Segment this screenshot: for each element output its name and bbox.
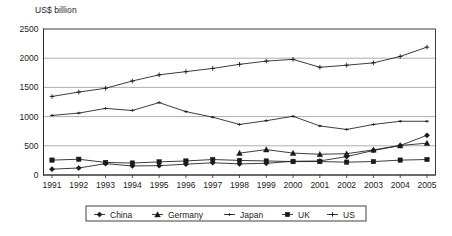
- legend-label: Japan: [240, 210, 263, 220]
- x-axis-tick-label: 1993: [96, 180, 115, 190]
- y-axis-tick-label: 2000: [20, 53, 39, 63]
- y-axis-tick-label: 500: [24, 141, 38, 151]
- line-chart: US$ billion 05001000150020002500 1991199…: [0, 0, 452, 236]
- x-axis-tick-label: 1996: [176, 180, 195, 190]
- legend-marker-icon: [97, 212, 102, 217]
- y-axis-tick-label: 1500: [20, 82, 39, 92]
- series-germany: [237, 140, 430, 156]
- y-axis-tick-label: 1000: [20, 112, 39, 122]
- legend-item-germany[interactable]: Germany: [152, 210, 204, 220]
- legend-item-us[interactable]: US: [327, 210, 355, 220]
- data-point-marker: [130, 161, 134, 165]
- legend-label: China: [110, 210, 132, 220]
- legend-label: Germany: [168, 210, 204, 220]
- data-point-marker: [318, 159, 322, 163]
- x-axis-tick-label: 2004: [391, 180, 410, 190]
- y-axis-ticks: 05001000150020002500: [20, 24, 39, 180]
- data-point-marker: [237, 158, 241, 162]
- data-point-marker: [49, 167, 54, 172]
- x-axis-ticks: 1991199219931994199519961997199819992000…: [43, 175, 437, 190]
- y-axis-tick-label: 2500: [20, 24, 39, 34]
- data-point-marker: [77, 157, 81, 161]
- series-line: [52, 47, 427, 96]
- x-axis-tick-label: 2005: [418, 180, 437, 190]
- x-axis-tick-label: 1999: [257, 180, 276, 190]
- data-point-marker: [398, 158, 402, 162]
- x-axis-tick-label: 1992: [69, 180, 88, 190]
- chart-legend: ChinaGermanyJapanUKUS: [86, 206, 366, 221]
- x-axis-tick-label: 2003: [364, 180, 383, 190]
- data-point-marker: [103, 160, 107, 164]
- legend-label: US: [343, 210, 355, 220]
- legend-marker-icon: [285, 212, 289, 216]
- legend-item-uk[interactable]: UK: [282, 210, 310, 220]
- legend-item-china[interactable]: China: [94, 210, 132, 220]
- y-axis-tick-label: 0: [34, 170, 39, 180]
- data-point-marker: [264, 159, 268, 163]
- legend-item-japan[interactable]: Japan: [224, 210, 263, 220]
- chart-plot-area: 05001000150020002500 1991199219931994199…: [0, 0, 452, 236]
- data-point-marker: [425, 157, 429, 161]
- x-axis-tick-label: 1998: [230, 180, 249, 190]
- legend-label: UK: [298, 210, 310, 220]
- x-axis-tick-label: 1995: [150, 180, 169, 190]
- x-axis-tick-label: 2000: [284, 180, 303, 190]
- data-point-marker: [184, 159, 188, 163]
- data-point-marker: [50, 158, 54, 162]
- data-series: [49, 45, 429, 172]
- data-point-marker: [291, 159, 295, 163]
- series-japan: [50, 101, 429, 130]
- data-point-marker: [263, 147, 269, 152]
- data-point-marker: [211, 157, 215, 161]
- data-point-marker: [76, 165, 81, 170]
- data-point-marker: [371, 159, 375, 163]
- data-point-marker: [344, 160, 348, 164]
- x-axis-tick-label: 1997: [203, 180, 222, 190]
- x-axis-tick-label: 1994: [123, 180, 142, 190]
- data-point-marker: [157, 160, 161, 164]
- data-point-marker: [424, 133, 429, 138]
- x-axis-tick-label: 2002: [337, 180, 356, 190]
- gridlines: [44, 58, 436, 146]
- x-axis-tick-label: 1991: [43, 180, 62, 190]
- x-axis-tick-label: 2001: [310, 180, 329, 190]
- series-us: [50, 45, 430, 99]
